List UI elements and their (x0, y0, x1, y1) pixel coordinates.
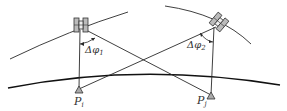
orbit-arc-right (165, 6, 251, 44)
satellite-icon-1 (74, 18, 88, 32)
angle-label-1: Δφ1 (84, 44, 104, 57)
station-label-pi: Pi (73, 95, 84, 109)
satellite-geometry-diagram: Δφ1 Δφ2 Pi Pj (0, 0, 287, 111)
earth-surface-arc (8, 74, 280, 88)
orbit-arc-left (10, 12, 128, 59)
station-label-pj: Pj (196, 94, 207, 108)
line-sat2-pi (79, 27, 216, 89)
line-sat1-pi (79, 30, 80, 88)
angle-label-2: Δφ2 (186, 39, 206, 52)
station-marker-pi (75, 86, 83, 93)
line-sat2-pj (211, 27, 214, 95)
arrowhead (80, 42, 84, 46)
